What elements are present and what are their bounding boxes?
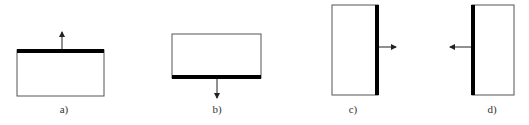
- panel-c-rectangle: [332, 5, 378, 95]
- panel-d: d): [450, 5, 514, 116]
- panel-b-label: b): [212, 103, 222, 116]
- panel-b: b): [172, 34, 261, 116]
- diagram-canvas: a) b) c) d): [0, 0, 529, 125]
- panel-d-label: d): [487, 103, 497, 116]
- panel-d-rectangle: [472, 5, 514, 95]
- panel-b-rectangle: [172, 34, 261, 78]
- panel-a-rectangle: [17, 50, 104, 96]
- panel-a: a): [17, 32, 104, 116]
- panel-a-label: a): [60, 103, 69, 116]
- panel-c: c): [332, 5, 396, 116]
- panel-c-label: c): [349, 103, 358, 116]
